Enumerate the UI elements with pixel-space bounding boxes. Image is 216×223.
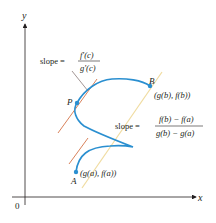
secant-slope-prefix: slope = (115, 121, 140, 131)
point-a-coords: (g(a), f(a)) (80, 168, 117, 178)
cauchy-mean-value-diagram: y x 0 A (g(a), f(a)) B (g(b), f(b)) P sl… (0, 0, 216, 223)
origin-label: 0 (15, 201, 20, 211)
point-a-marker (74, 170, 78, 174)
label-leader-line (72, 71, 88, 91)
point-p-label: P (66, 97, 73, 107)
tangent-slope-denominator: g′(c) (80, 63, 96, 73)
x-axis-label: x (197, 192, 203, 203)
point-a-label: A (70, 176, 77, 186)
tangent-slope-prefix: slope = (40, 56, 65, 66)
y-axis-label: y (21, 10, 27, 21)
point-p-marker (75, 101, 79, 105)
tangent-slope-numerator: f′(c) (80, 50, 94, 60)
secant-slope-numerator: f(b) − f(a) (159, 114, 194, 124)
secant-slope-denominator: g(b) − g(a) (156, 128, 194, 138)
point-b-label: B (149, 76, 155, 86)
tangent-line-lower (69, 138, 88, 164)
point-b-coords: (g(b), f(b)) (154, 90, 191, 100)
